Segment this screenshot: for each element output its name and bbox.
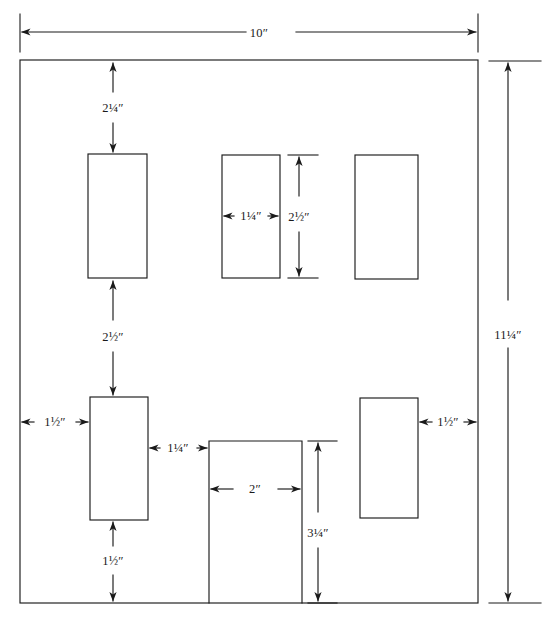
label-left-inset: 1½″ — [44, 415, 65, 429]
label-mid-gap: 2½″ — [102, 330, 123, 344]
label-right-inset: 1½″ — [437, 415, 458, 429]
floorplan-svg: 10″ 11¼″ 2¼″ 1¼″ 2½″ 2½″ 1½″ 1¼″ 2″ 3¼″ … — [0, 0, 549, 618]
label-box-width: 1¼″ — [240, 209, 261, 223]
label-bottom-inset: 1½″ — [102, 554, 123, 568]
label-overall-height: 11¼″ — [494, 328, 521, 342]
mid-box-height-dimension — [308, 441, 337, 603]
label-mid-box-width: 2″ — [249, 482, 261, 496]
box-bottom-left — [90, 397, 148, 520]
label-overall-width: 10″ — [250, 26, 268, 40]
box-top-right — [355, 155, 418, 279]
label-mid-box-height: 3¼″ — [307, 526, 328, 540]
box-top-left — [88, 154, 147, 278]
box-bottom-right — [360, 398, 418, 518]
label-left-to-mid: 1¼″ — [167, 441, 188, 455]
room-outline — [20, 60, 478, 603]
label-top-offset: 2¼″ — [102, 101, 123, 115]
box-bottom-mid — [209, 441, 302, 603]
dimension-drawing: 10″ 11¼″ 2¼″ 1¼″ 2½″ 2½″ 1½″ 1¼″ 2″ 3¼″ … — [0, 0, 549, 618]
label-box-height: 2½″ — [288, 210, 309, 224]
